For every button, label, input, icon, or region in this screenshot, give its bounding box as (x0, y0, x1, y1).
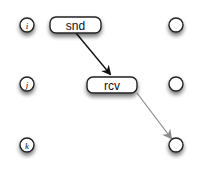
process-end-node-j (169, 77, 183, 91)
message-arrow-snd-to-rcv (76, 33, 110, 74)
diagram-canvas: i j k snd rcv (0, 0, 205, 173)
event-label-rcv: rcv (104, 79, 120, 93)
process-end-node-i (169, 18, 183, 32)
message-arrow-rcv-to-k (137, 93, 171, 138)
event-label-snd: snd (66, 19, 85, 33)
process-label-j: j (25, 80, 29, 90)
process-end-node-k (169, 138, 183, 152)
